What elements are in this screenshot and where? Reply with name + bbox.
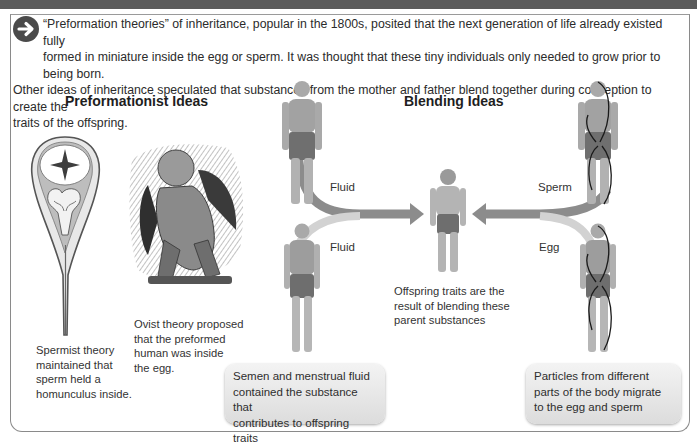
fluid-label-male: Fluid — [330, 181, 355, 193]
egg-label: Egg — [539, 241, 559, 253]
offspring-caption-line: result of blending these — [394, 299, 510, 314]
callout-line: parts of the body migrate — [534, 385, 673, 401]
callout-line: contained the substance that — [233, 385, 377, 416]
callout-line: to the egg and sperm — [534, 400, 673, 416]
father-figure-left — [280, 80, 324, 210]
particle-theory-callout: Particles from different parts of the bo… — [526, 364, 681, 424]
offspring-caption: Offspring traits are the result of blend… — [394, 284, 510, 328]
fluid-label-female: Fluid — [330, 241, 355, 253]
mother-figure-left — [282, 222, 322, 357]
mother-figure-right — [578, 222, 618, 357]
callout-line: Particles from different — [534, 369, 673, 385]
offspring-caption-line: parent substances — [394, 313, 510, 328]
callout-line: contributes to offspring traits — [233, 416, 377, 446]
fluid-theory-callout: Semen and menstrual fluid contained the … — [225, 364, 385, 424]
callout-line: Semen and menstrual fluid — [233, 369, 377, 385]
offspring-child-figure — [427, 168, 469, 276]
offspring-caption-line: Offspring traits are the — [394, 284, 510, 299]
father-figure-right — [576, 80, 620, 210]
sperm-label: Sperm — [538, 181, 572, 193]
